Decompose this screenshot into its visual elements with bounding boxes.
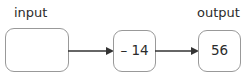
operation-box[interactable]: – 14 [113,30,156,72]
input-label: input [14,6,47,20]
operation-box-value: – 14 [120,44,148,58]
output-box[interactable]: 56 [198,30,241,72]
arrow-operation-to-output [155,46,199,56]
input-box[interactable] [5,28,69,72]
arrow-input-to-operation [68,46,114,56]
function-machine-diagram: input output – 14 56 [0,0,250,74]
output-label: output [197,6,240,20]
output-box-value: 56 [211,44,228,58]
